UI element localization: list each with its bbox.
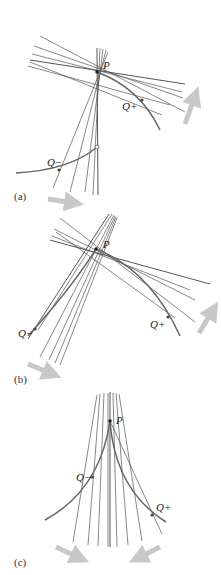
panel-a [16,36,185,195]
label-p-a: P [102,59,110,71]
arrow-icon [185,96,195,124]
label-qplus-c: Q+ [156,501,171,513]
panel-c [45,392,166,547]
secant-diagram: P Q+ Q− (a) P Q+ Q− (b) [0,0,221,575]
point-p-a [95,70,99,74]
arrow-icon [138,547,160,558]
label-qminus-a: Q− [47,156,62,168]
panel-label-a: (a) [14,190,27,203]
arrow-icon [28,364,52,374]
label-qplus-a: Q+ [122,100,137,112]
label-qminus-c: Q− [76,471,91,483]
arrow-icon [56,547,80,558]
label-p-c: P [115,414,123,426]
panel-label-b: (b) [14,373,27,386]
arrow-icon [48,199,74,203]
label-qminus-b: Q− [18,327,33,339]
panel-label-c: (c) [14,556,27,569]
arrow-icon [199,310,213,333]
label-qplus-b: Q+ [150,318,165,330]
panel-b [28,214,210,365]
label-p-b: P [102,238,110,250]
